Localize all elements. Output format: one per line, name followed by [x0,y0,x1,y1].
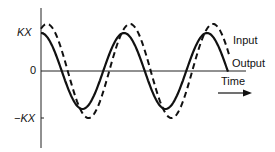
input-label: Input [233,35,257,46]
time-arrow [218,90,252,97]
kx-label: KX [17,27,32,38]
zero-label: 0 [30,65,36,76]
time-label: Time [221,76,245,87]
neg-kx-label: −KX [14,113,35,124]
output-label: Output [232,58,265,69]
